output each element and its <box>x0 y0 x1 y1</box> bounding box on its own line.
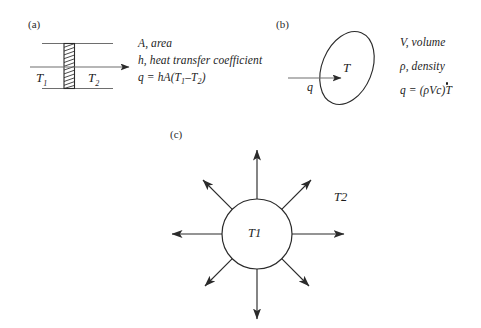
panel-c-inner-temperature-symbol: T <box>248 226 255 240</box>
panel-a-equation: q = hA(T1–T2) <box>138 71 206 86</box>
panel-a-temperature-right: T2 <box>88 70 99 88</box>
panel-a-wall <box>64 44 75 89</box>
panel-b-equation-rhs: (ρVc) <box>420 84 446 96</box>
panel-b-equation: q = (ρVc)T <box>400 84 452 96</box>
panel-a-legend-area: A, area <box>138 37 172 49</box>
panel-b-heat-input-label: q <box>307 80 313 95</box>
panel-c-outer-temperature-subscript: 2 <box>341 190 347 204</box>
panel-c-inner-temperature: T1 <box>248 226 261 241</box>
panel-c-inner-temperature-subscript: 1 <box>255 226 261 240</box>
panel-b-body-temperature: T <box>343 60 350 76</box>
panel-c-label: (c) <box>170 128 182 140</box>
panel-a-temperature-right-subscript: 2 <box>95 79 99 88</box>
panel-b-legend-density: ρ, density <box>400 60 445 72</box>
panel-c-outer-temperature: T2 <box>334 190 347 205</box>
figure-line-art <box>0 0 481 328</box>
heat-transfer-figure: (a) <box>0 0 481 328</box>
panel-a-equation-minus: –T <box>185 71 197 83</box>
panel-c-outer-temperature-symbol: T <box>334 190 341 204</box>
panel-a-legend-coefficient-text: , heat transfer coefficient <box>144 54 262 66</box>
panel-a-equation-equals: = <box>144 71 158 83</box>
panel-b-equation-equals: = <box>406 84 420 96</box>
panel-b-legend-volume: V, volume <box>400 36 445 48</box>
panel-a-legend-coefficient: h, heat transfer coefficient <box>138 54 262 66</box>
panel-b-legend-volume-text: , volume <box>406 36 446 48</box>
panel-a-temperature-left-subscript: 1 <box>43 79 47 88</box>
panel-a-wall-boundaries <box>42 44 113 89</box>
panel-b-equation-rate-variable: T <box>445 84 452 96</box>
panel-a-equation-rhs-post: ) <box>202 71 206 83</box>
panel-a-legend-area-text: , area <box>145 37 172 49</box>
panel-a-equation-rhs-pre: hA(T <box>158 71 181 83</box>
panel-b-label: (b) <box>276 18 289 30</box>
panel-a-temperature-left: T1 <box>36 70 47 88</box>
panel-b-legend-density-text: , density <box>406 60 445 72</box>
